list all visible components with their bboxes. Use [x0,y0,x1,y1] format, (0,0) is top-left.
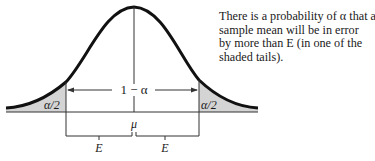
left-arrowhead-icon [67,88,74,93]
caption: There is a probability of α that a sampl… [219,10,375,64]
right-margin-label: E [160,141,169,155]
left-tail-label: α/2 [44,98,60,112]
caption-line: by more than E (in one of the [219,37,375,51]
caption-line: sample mean will be in error [219,24,375,38]
right-arrowhead-icon [191,88,198,93]
left-margin-label: E [94,141,103,155]
center-region-label: 1 − α [120,82,147,97]
caption-line: shaded tails). [219,51,375,65]
right-tail-label: α/2 [201,98,217,112]
caption-line: There is a probability of α that a [219,10,375,24]
mean-label: μ [130,117,137,131]
